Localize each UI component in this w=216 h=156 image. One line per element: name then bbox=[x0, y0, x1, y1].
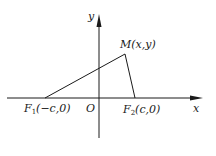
point-f2-coords: (c,0) bbox=[135, 103, 160, 116]
point-f1-name: F bbox=[23, 102, 32, 115]
point-f1-label: F1(−c,0) bbox=[23, 102, 71, 116]
point-f2-label: F2(c,0) bbox=[122, 103, 160, 117]
point-m-label: M(x,y) bbox=[119, 38, 156, 51]
diagram-svg: y x O M(x,y) F1(−c,0) F2(c,0) bbox=[0, 0, 216, 156]
origin-label: O bbox=[86, 102, 95, 115]
segment-m-f2 bbox=[125, 54, 135, 98]
x-axis-label: x bbox=[193, 102, 200, 115]
x-axis-arrow-icon bbox=[190, 96, 203, 101]
y-axis-label: y bbox=[87, 10, 95, 23]
point-f2-name: F bbox=[122, 103, 131, 116]
point-f1-coords: (−c,0) bbox=[36, 102, 70, 115]
segment-f1-m bbox=[45, 54, 125, 98]
y-axis-arrow-icon bbox=[97, 14, 102, 27]
point-m-name: M bbox=[119, 38, 132, 51]
diagram-canvas: y x O M(x,y) F1(−c,0) F2(c,0) bbox=[0, 0, 216, 156]
point-m-coords: (x,y) bbox=[131, 38, 156, 51]
